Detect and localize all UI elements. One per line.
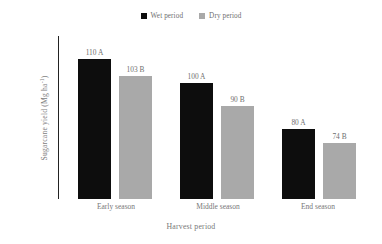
legend-label-wet-period: Wet period [151,12,184,20]
x-category-label-end-season: End season [272,202,364,211]
y-axis-title-main: Sugarcane yield (Mg ha [40,83,49,160]
y-axis-title: Sugarcane yield (Mg ha-1) [39,75,50,160]
y-axis-title-end: ) [40,75,49,78]
plot-area: Sugarcane yield (Mg ha-1) 120 110 100 90… [58,36,376,199]
bar-label-wet-early-season: 110 A [86,48,104,57]
legend-item-dry-period: Dry period [199,12,241,20]
chart-figure: Wet period Dry period Sugarcane yield (M… [0,0,382,244]
bar-group-end-season: 80 A 74 B End season [282,36,380,199]
bar-dry-middle-season: 90 B [221,106,254,199]
bar-dry-early-season: 103 B [119,76,152,199]
x-category-label-middle-season: Middle season [172,202,264,211]
legend-swatch-dry-period [199,13,205,19]
bar-label-dry-early-season: 103 B [127,65,145,74]
bar-wet-end-season: 80 A [282,129,315,199]
bar-label-dry-middle-season: 90 B [230,95,244,104]
x-category-label-early-season: Early season [70,202,162,211]
legend-swatch-wet-period [141,13,147,19]
bar-label-wet-middle-season: 100 A [188,72,206,81]
bar-label-dry-end-season: 74 B [332,132,346,141]
bar-wet-early-season: 110 A [78,59,111,199]
bar-label-wet-end-season: 80 A [291,118,305,127]
bar-group-middle-season: 100 A 90 B Middle season [180,36,278,199]
bar-group-early-season: 110 A 103 B Early season [78,36,176,199]
bar-dry-end-season: 74 B [323,143,356,199]
y-axis-title-exponent: -1 [39,78,45,83]
y-axis-line [58,36,59,199]
legend-item-wet-period: Wet period [141,12,184,20]
x-axis-title: Harvest period [0,222,382,231]
chart-legend: Wet period Dry period [0,12,382,20]
bar-wet-middle-season: 100 A [180,83,213,199]
legend-label-dry-period: Dry period [209,12,241,20]
